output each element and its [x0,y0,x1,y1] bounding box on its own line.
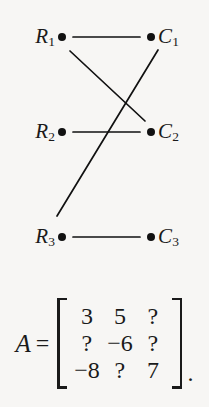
matrix-row: −8 ? 7 [70,357,169,384]
matrix-cell: 3 [70,304,103,328]
matrix-left-bracket [57,298,68,389]
matrix-cell: 5 [103,304,136,328]
node-label-r2: R2 [35,121,55,144]
matrix-row: 3 5 ? [70,303,169,330]
edge-r1-c2 [70,51,145,121]
matrix-cell: ? [136,331,169,355]
matrix-cell: 7 [136,358,169,382]
matrix-grid: 3 5 ? ? −6 ? −8 ? 7 [68,298,171,389]
equation-inner: A = 3 5 ? ? −6 ? −8 ? 7 [16,298,194,389]
matrix-equation: A = 3 5 ? ? −6 ? −8 ? 7 [0,288,209,398]
figure-root: R1 R2 R3 C1 C2 C3 A = [0,0,209,407]
node-label-c3: C3 [158,226,179,249]
bipartite-graph: R1 R2 R3 C1 C2 C3 [0,0,209,280]
equals-sign: = [36,331,58,355]
matrix-cell: ? [103,358,136,382]
trailing-period: . [182,361,193,389]
matrix-cell: −6 [103,331,136,355]
edge-c1-r3 [57,50,158,216]
matrix-cell: −8 [70,358,103,382]
node-label-r3: R3 [35,226,55,249]
matrix-cell: ? [136,304,169,328]
node-label-c2: C2 [158,121,179,144]
matrix-cell: ? [70,331,103,355]
matrix-name-label: A [16,331,36,356]
node-label-c1: C1 [158,26,179,49]
matrix-right-bracket [171,298,182,389]
matrix-row: ? −6 ? [70,330,169,357]
node-label-r1: R1 [35,26,55,49]
